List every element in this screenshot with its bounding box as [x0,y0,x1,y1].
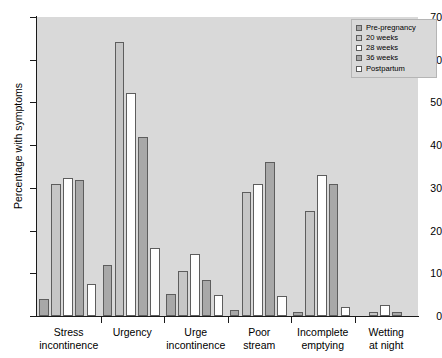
bar [138,137,148,316]
legend-swatch-icon [356,55,362,61]
bar [392,312,402,316]
y-tick-label: 50 [416,97,442,107]
bar [150,248,160,316]
legend-swatch-icon [356,35,362,41]
legend-item: 36 weeks [356,54,433,64]
x-tick-mark [355,317,356,323]
bar [166,294,176,316]
x-tick-mark [164,317,165,323]
x-tick-mark [228,317,229,323]
bar [51,184,61,316]
legend-item-label: 20 weeks [366,34,398,42]
bar [63,178,73,316]
bar [230,310,240,316]
bar [75,180,85,316]
y-tick-label: 40 [416,140,442,150]
bar [178,271,188,316]
x-tick-mark [101,317,102,323]
bar [39,299,49,316]
legend-item-label: Pre-pregnancy [366,24,416,32]
legend-item: Postpartum [356,64,433,74]
y-axis-line [36,16,37,317]
bar-chart-figure: 010203040506070 Percentage with symptoms… [0,0,442,358]
legend-item-label: Postpartum [366,65,405,73]
bar [190,254,200,316]
y-tick-mark [30,60,36,61]
x-axis-category-label: Wettingat night [349,326,425,351]
bar [317,175,327,316]
bar [87,284,97,316]
bar [341,307,351,316]
legend-swatch-icon [356,66,362,72]
bar [103,265,113,316]
legend-item: 28 weeks [356,43,433,53]
x-label-line: at night [349,339,425,352]
bar [126,93,136,316]
y-tick-label: 30 [416,183,442,193]
legend-swatch-icon [356,45,362,51]
bar [253,184,263,316]
y-tick-label: 10 [416,268,442,278]
y-tick-mark [30,145,36,146]
y-tick-mark [30,231,36,232]
bar [277,296,287,317]
y-tick-mark [30,102,36,103]
x-tick-mark [291,317,292,323]
legend-item: Pre-pregnancy [356,23,433,33]
legend: Pre-pregnancy20 weeks28 weeks36 weeksPos… [351,19,437,78]
y-tick-mark [30,188,36,189]
bar [214,295,224,316]
bar [202,280,212,316]
y-tick-mark [30,273,36,274]
legend-item: 20 weeks [356,33,433,43]
x-label-line: incontinence [31,339,107,352]
y-axis-title: Percentage with symptoms [12,71,24,221]
bar [115,42,125,316]
y-tick-mark [30,316,36,317]
bar [329,184,339,316]
y-tick-label: 20 [416,226,442,236]
y-tick-label: 0 [416,311,442,321]
legend-item-label: 28 weeks [366,44,398,52]
y-tick-mark [30,17,36,18]
legend-swatch-icon [356,25,362,31]
bar [305,211,315,316]
legend-item-label: 36 weeks [366,54,398,62]
bar [369,312,379,316]
bar [293,312,303,316]
bar [265,162,275,316]
x-label-line: Wetting [349,326,425,339]
bar [380,305,390,316]
bar [242,192,252,316]
